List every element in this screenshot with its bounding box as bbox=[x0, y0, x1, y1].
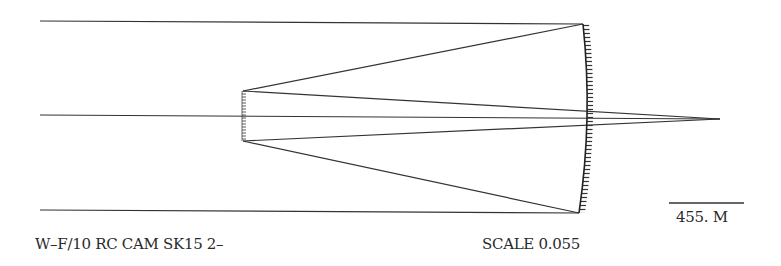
scale-label: SCALE 0.055 bbox=[482, 235, 580, 253]
design-title-label: W–F/10 RC CAM SK15 2– bbox=[35, 235, 223, 253]
ray-bottom-to-focus bbox=[243, 119, 720, 141]
ray-bottom-incoming bbox=[40, 210, 579, 213]
ray-top-incoming bbox=[40, 21, 583, 24]
ray-bottom-to-secondary bbox=[243, 141, 579, 213]
secondary-mirror bbox=[242, 91, 246, 141]
optical-ray-diagram bbox=[0, 0, 781, 266]
ray-top-to-focus bbox=[243, 91, 720, 119]
ray-top-to-secondary bbox=[243, 24, 583, 91]
scale-bar-label: 455. M bbox=[676, 208, 728, 226]
incoming-rays bbox=[40, 21, 720, 213]
ray-axis bbox=[40, 115, 720, 119]
